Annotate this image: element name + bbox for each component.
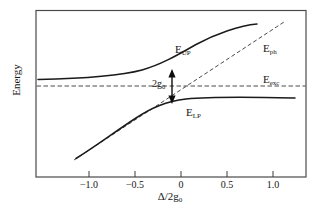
upper-polariton-label-main: E	[175, 43, 182, 55]
plot-frame	[36, 11, 306, 178]
photon-label: Eph	[263, 43, 277, 54]
x-tick-label--0.5: −0.5	[120, 180, 150, 190]
exciton-label-main: E	[263, 73, 270, 85]
lower-polariton-label-main: E	[186, 106, 193, 118]
y-axis-title: Energy	[10, 40, 22, 120]
upper-polariton-label-sub: UP	[182, 49, 191, 57]
exciton-label: Eexc	[263, 74, 279, 85]
x-tick-label-0: 0	[166, 180, 196, 190]
rabi-splitting-label-main: 2g	[152, 78, 162, 89]
photon-label-main: E	[263, 42, 270, 54]
x-tick-label-1.0: 1.0	[258, 180, 288, 190]
x-axis-title-main: Δ/2g	[158, 190, 179, 202]
rabi-splitting-label: 2g0	[152, 79, 165, 89]
polariton-dispersion-figure: Energy Δ/2g0 −1.0 −0.5 0 0.5 1.0 EUP ELP…	[0, 0, 321, 213]
rabi-splitting-label-sub: 0	[162, 83, 165, 90]
photon-label-sub: ph	[270, 48, 277, 56]
x-tick-label--1.0: −1.0	[74, 180, 104, 190]
exciton-label-sub: exc	[270, 79, 280, 87]
x-axis-title-sub: 0	[179, 196, 183, 204]
upper-polariton-label: EUP	[175, 44, 191, 55]
lower-polariton-label: ELP	[186, 107, 201, 118]
x-tick-label-0.5: 0.5	[212, 180, 242, 190]
x-axis-title: Δ/2g0	[120, 190, 220, 202]
lower-polariton-label-sub: LP	[193, 112, 201, 120]
